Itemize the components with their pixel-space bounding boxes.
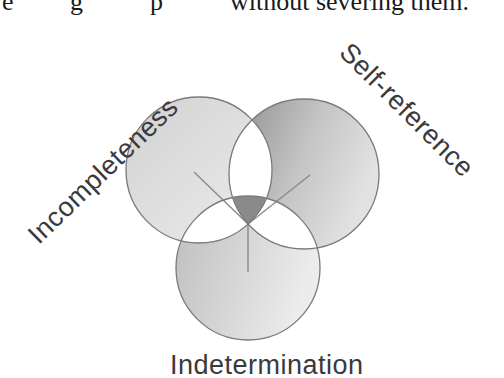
label-indetermination: Indetermination (170, 350, 364, 378)
